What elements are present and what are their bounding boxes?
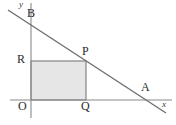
point-label-B: B: [27, 7, 35, 19]
geometry-figure: y x B R P Q O A: [0, 0, 176, 125]
point-label-P: P: [82, 45, 89, 57]
point-label-R: R: [17, 53, 25, 65]
point-label-Q: Q: [81, 100, 90, 112]
shaded-rectangle-OQPR: [31, 61, 86, 100]
point-label-A: A: [141, 81, 150, 93]
y-axis-label: y: [19, 0, 23, 9]
point-label-O: O: [18, 100, 27, 112]
x-axis-label: x: [162, 100, 166, 109]
